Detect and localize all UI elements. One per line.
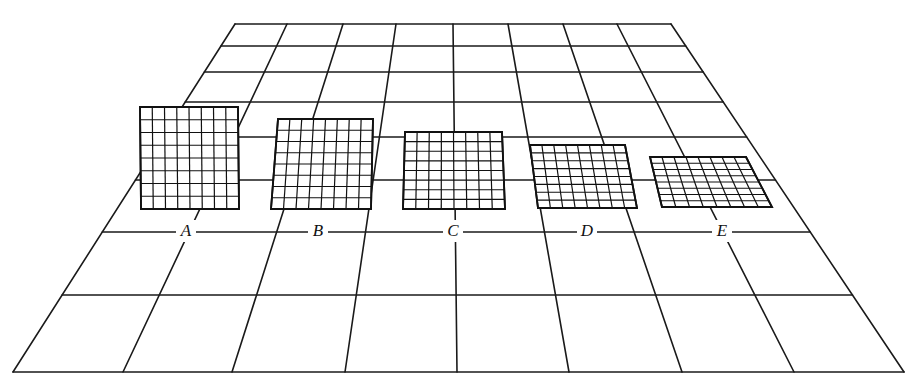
panel-label-text: A — [180, 221, 192, 240]
panel-label-d: D — [577, 220, 597, 242]
panel-label-text: D — [580, 221, 594, 240]
panel-label-text: B — [313, 221, 324, 240]
panel-c — [403, 132, 505, 209]
panels-group — [140, 107, 772, 209]
diagram-canvas: ABCDE — [0, 0, 919, 386]
panel-label-text: E — [716, 221, 728, 240]
panel-grid-line — [454, 132, 455, 209]
panel-label-e: E — [712, 220, 732, 242]
panel-label-c: C — [443, 220, 463, 242]
panel-label-a: A — [176, 220, 196, 242]
labels-group: ABCDE — [176, 220, 732, 242]
panel-label-b: B — [308, 220, 328, 242]
panel-e — [650, 157, 772, 207]
panel-label-text: C — [447, 221, 459, 240]
panel-d — [530, 145, 637, 208]
perspective-diagram: ABCDE — [0, 0, 919, 386]
panel-a — [140, 107, 239, 209]
panel-b — [271, 119, 373, 209]
